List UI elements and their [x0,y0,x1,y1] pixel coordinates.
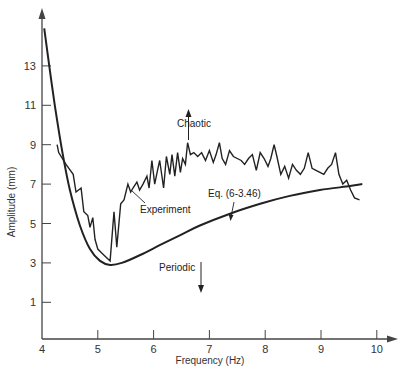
y-tick-label: 9 [30,139,36,151]
x-tick-label: 6 [151,343,157,355]
y-ticks [42,66,51,302]
x-tick-label: 7 [206,343,212,355]
y-tick-label: 1 [30,296,36,308]
x-ticks [98,330,377,339]
theory-curve [44,28,362,264]
experiment-pointer [131,190,145,203]
y-tick-label: 7 [30,178,36,190]
y-tick-label: 13 [24,60,36,72]
x-tick-label: 8 [262,343,268,355]
experiment-curve [57,143,359,261]
x-tick-label: 10 [371,343,383,355]
y-tick-label: 11 [25,99,36,111]
x-tick-labels: 45678910 [39,343,383,355]
y-tick-label: 5 [30,218,36,230]
y-tick-label: 3 [30,257,36,269]
x-tick-label: 9 [318,343,324,355]
x-tick-label: 5 [95,343,101,355]
chaotic-label: Chaotic [177,118,211,129]
x-axis-arrowhead-icon [387,336,398,343]
frequency-amplitude-chart: 45678910 135791113 Frequency (Hz) Amplit… [0,0,408,373]
periodic-label: Periodic [159,262,195,273]
x-axis-title: Frequency (Hz) [176,355,245,366]
experiment-label: Experiment [140,204,191,215]
down-arrow-icon [198,262,204,293]
equation-label: Eq. (6-3.46) [208,188,261,199]
y-tick-labels: 135791113 [24,60,36,308]
y-axis-title: Amplitude (mm) [6,167,17,238]
y-axis-arrowhead-icon [39,8,46,19]
x-tick-label: 4 [39,343,45,355]
